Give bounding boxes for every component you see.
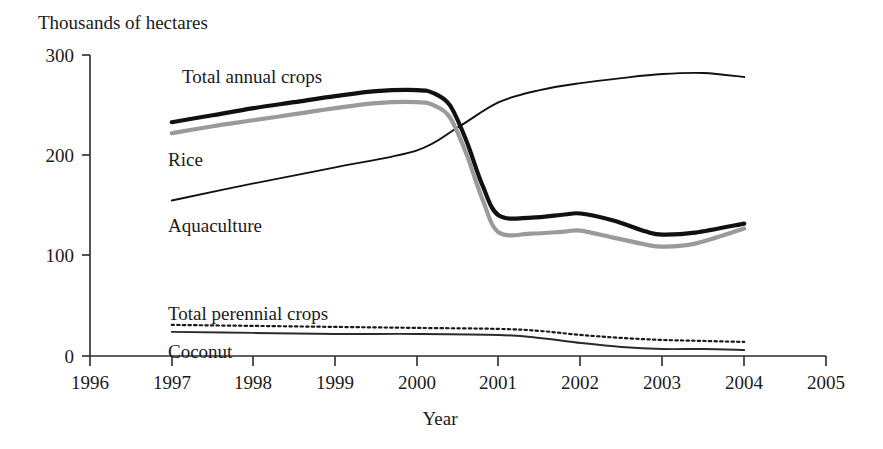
series-label-coconut: Coconut: [168, 341, 233, 362]
x-tick-label-2004: 2004: [725, 372, 764, 393]
x-axis-title: Year: [422, 408, 458, 429]
x-tick-label-1997: 1997: [153, 372, 191, 393]
x-tick-label-2002: 2002: [561, 372, 599, 393]
chart-page: Thousands of hectares 300 200 100 0: [0, 0, 883, 449]
series-label-total-annual-crops: Total annual crops: [182, 66, 322, 87]
series-label-rice: Rice: [168, 149, 203, 170]
series-label-total-perennial-crops: Total perennial crops: [168, 303, 328, 324]
x-tick-label-2001: 2001: [479, 372, 517, 393]
y-tick-label-200: 200: [46, 145, 75, 166]
x-tick-label-2003: 2003: [643, 372, 681, 393]
y-axis-title: Thousands of hectares: [38, 12, 208, 33]
x-tick-label-1999: 1999: [316, 372, 354, 393]
y-tick-label-300: 300: [46, 45, 75, 66]
x-tick-label-1998: 1998: [234, 372, 272, 393]
y-tick-label-100: 100: [46, 245, 75, 266]
y-tick-label-0: 0: [65, 346, 75, 367]
series-label-aquaculture: Aquaculture: [168, 215, 262, 236]
x-tick-label-2000: 2000: [398, 372, 436, 393]
x-tick-label-2005: 2005: [807, 372, 845, 393]
x-tick-label-1996: 1996: [71, 372, 109, 393]
line-chart: Thousands of hectares 300 200 100 0: [0, 0, 883, 449]
